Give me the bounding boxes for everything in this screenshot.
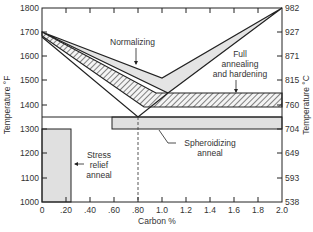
- spheroidizing-label-1: Spheroidizing: [184, 138, 236, 148]
- svg-text:704: 704: [285, 124, 299, 134]
- full-annealing-label-1: Full: [233, 49, 247, 59]
- svg-text:1700: 1700: [20, 27, 39, 37]
- y-axis-title-left: Temperature °F: [2, 76, 12, 135]
- svg-text:1.2: 1.2: [180, 205, 192, 215]
- svg-text:1.4: 1.4: [204, 205, 216, 215]
- svg-text:1600: 1600: [20, 51, 39, 61]
- spheroidizing-label-2: anneal: [197, 148, 223, 158]
- x-axis-title: Carbon %: [138, 216, 176, 226]
- stress-relief-region: [42, 129, 71, 202]
- stress-relief-label-3: anneal: [86, 170, 112, 180]
- svg-text:871: 871: [285, 51, 299, 61]
- normalizing-label: Normalizing: [110, 37, 155, 47]
- svg-text:760: 760: [285, 100, 299, 110]
- svg-text:982: 982: [285, 3, 299, 13]
- svg-text:1800: 1800: [20, 3, 39, 13]
- svg-text:927: 927: [285, 27, 299, 37]
- svg-text:1300: 1300: [20, 124, 39, 134]
- svg-text:1.6: 1.6: [228, 205, 240, 215]
- svg-text:.20: .20: [60, 205, 72, 215]
- svg-text:2.0: 2.0: [276, 205, 288, 215]
- svg-text:649: 649: [285, 148, 299, 158]
- stress-relief-label-1: Stress: [87, 150, 111, 160]
- full-annealing-label-3: and hardening: [213, 69, 268, 79]
- heat-treatment-chart: 1800 1700 1600 1500 1400 1300 1200 1100 …: [0, 0, 313, 232]
- svg-text:1.0: 1.0: [156, 205, 168, 215]
- svg-text:1400: 1400: [20, 100, 39, 110]
- svg-text:815: 815: [285, 75, 299, 85]
- normalizing-arrowhead: [134, 61, 138, 65]
- svg-text:1000: 1000: [20, 197, 39, 207]
- svg-text:1100: 1100: [21, 173, 40, 183]
- right-tick-labels: 982 927 871 815 760 704 649 593 538: [285, 3, 299, 207]
- right-axis: [277, 32, 282, 178]
- stress-relief-arrowhead: [74, 162, 78, 166]
- svg-text:.80: .80: [132, 205, 144, 215]
- svg-text:.60: .60: [108, 205, 120, 215]
- svg-text:1200: 1200: [20, 148, 39, 158]
- svg-text:.40: .40: [84, 205, 96, 215]
- svg-text:1500: 1500: [20, 75, 39, 85]
- svg-text:1.8: 1.8: [252, 205, 264, 215]
- full-annealing-label-2: annealing: [222, 59, 259, 69]
- svg-text:593: 593: [285, 173, 299, 183]
- x-tick-labels: 0 .20 .40 .60 .80 1.0 1.2 1.4 1.6 1.8 2.…: [40, 205, 289, 215]
- spheroidizing-arrow: [159, 130, 176, 143]
- left-tick-labels: 1800 1700 1600 1500 1400 1300 1200 1100 …: [20, 3, 39, 207]
- svg-text:0: 0: [40, 205, 45, 215]
- spheroidizing-region: [112, 117, 282, 129]
- stress-relief-label-2: relief: [90, 160, 109, 170]
- y-axis-title-right: Temperature °C: [301, 75, 311, 135]
